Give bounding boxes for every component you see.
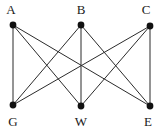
vertex-label-g: G [8,115,17,128]
graph-diagram: ABCGWE [0,0,157,138]
graph-vertex [147,23,154,30]
graph-vertex [10,102,17,109]
vertex-label-b: B [77,3,86,16]
graph-vertex [147,103,154,110]
graph-vertex [10,22,17,29]
graph-vertex [78,22,85,29]
vertex-label-a: A [6,3,15,16]
edge-layer [13,25,150,106]
graph-vertex [78,103,85,110]
vertex-label-e: E [144,115,152,128]
vertex-label-c: C [142,3,151,16]
vertex-label-w: W [75,115,87,128]
